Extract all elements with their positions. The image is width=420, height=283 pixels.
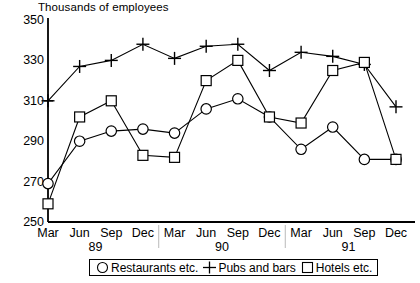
legend-item-label: Hotels etc. (316, 261, 373, 275)
legend-marker-square (300, 261, 315, 274)
legend-item-label: Restaurants etc. (111, 261, 198, 275)
marker-circle (43, 178, 53, 188)
marker-square (328, 66, 338, 76)
marker-circle (328, 122, 338, 132)
series-line (48, 44, 396, 107)
marker-square (233, 55, 243, 65)
marker-circle (106, 126, 116, 136)
marker-circle (169, 128, 179, 138)
marker-square (296, 118, 306, 128)
marker-square (170, 152, 180, 162)
marker-square (359, 57, 369, 67)
chart-legend: Restaurants etc.Pubs and barsHotels etc. (89, 259, 378, 276)
marker-circle (138, 124, 148, 134)
series-plus (42, 38, 403, 114)
marker-square (138, 150, 148, 160)
series-line (48, 60, 396, 203)
marker-circle (359, 154, 369, 164)
legend-item-circle[interactable]: Restaurants etc. (93, 261, 200, 275)
chart-container: Thousands of employees 25027029031033035… (0, 0, 420, 283)
marker-circle (201, 104, 211, 114)
marker-square (43, 199, 53, 209)
plot-area (0, 0, 420, 283)
legend-marker-plus (202, 261, 217, 274)
legend-item-square[interactable]: Hotels etc. (298, 261, 375, 275)
marker-square (264, 112, 274, 122)
legend-marker-circle (95, 261, 110, 274)
marker-circle (74, 136, 84, 146)
series-line (48, 99, 396, 184)
marker-circle (233, 94, 243, 104)
marker-square (391, 154, 401, 164)
marker-square (75, 112, 85, 122)
legend-item-plus[interactable]: Pubs and bars (200, 261, 297, 275)
series-square (43, 55, 401, 208)
marker-square (201, 76, 211, 86)
legend-item-label: Pubs and bars (218, 261, 295, 275)
marker-circle (296, 144, 306, 154)
marker-square (106, 96, 116, 106)
